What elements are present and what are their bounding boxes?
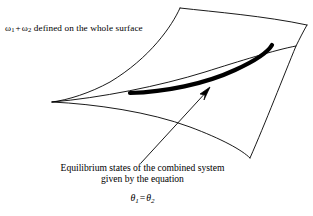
plus-operator: + [15, 23, 22, 33]
theta-equation: θ1=θ2 [0, 192, 285, 205]
surface-top-edge [180, 8, 307, 25]
surface-right-edge [250, 25, 307, 158]
caption-pointer-arrow-head [200, 87, 210, 100]
caption-line-2: given by the equation [0, 174, 285, 185]
surface-bottom-edge [52, 102, 250, 158]
omega-sum-annotation: ω1+ω2 defined on the whole surface [5, 23, 143, 34]
theta2-subscript: 2 [151, 197, 155, 205]
caption-pointer-arrow-shaft [141, 89, 209, 163]
omega-annotation-text: defined on the whole surface [31, 23, 142, 33]
figure-container: ω1+ω2 defined on the whole surface Equil… [0, 0, 313, 216]
equilibrium-caption: Equilibrium states of the combined syste… [0, 163, 285, 184]
